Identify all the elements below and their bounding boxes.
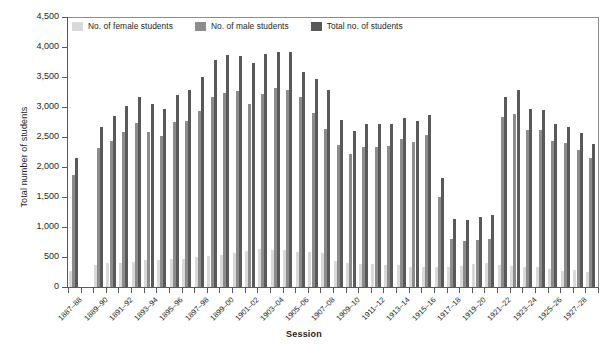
bar-total	[416, 121, 419, 287]
x-axis-tick	[371, 288, 372, 293]
bar-total	[390, 124, 393, 287]
x-axis-tick	[320, 288, 321, 293]
x-axis-tick	[346, 288, 347, 293]
bar-total	[504, 97, 507, 287]
bar-total	[226, 55, 229, 287]
x-axis-tick	[447, 288, 448, 293]
y-axis-tick-label: 0	[3, 282, 59, 291]
x-axis-tick	[182, 288, 183, 293]
y-axis-tick-label: 3,500	[3, 72, 59, 81]
bar-total	[75, 158, 78, 287]
y-axis-tick-label: 2,500	[3, 132, 59, 141]
y-axis-tick-label: 500	[3, 252, 59, 261]
x-axis-tick	[383, 288, 384, 293]
legend-swatch-male-icon	[195, 22, 206, 31]
legend-label-male: No. of male students	[211, 21, 289, 31]
bar-total	[188, 90, 191, 287]
x-axis-tick	[535, 288, 536, 293]
x-axis-tick	[156, 288, 157, 293]
x-axis-tick	[219, 288, 220, 293]
legend-swatch-total-icon	[311, 22, 322, 31]
bar-total	[151, 104, 154, 287]
bar-total	[466, 220, 469, 287]
bar-total	[353, 131, 356, 287]
legend-item-female: No. of female students	[72, 21, 173, 31]
bar-total	[138, 97, 141, 287]
x-axis-tick	[472, 288, 473, 293]
bar-total	[491, 215, 494, 287]
x-axis-tick	[81, 288, 82, 293]
legend-label-total: Total no. of students	[327, 21, 403, 31]
x-axis-tick	[522, 288, 523, 293]
bar-total	[403, 118, 406, 287]
x-axis-tick	[459, 288, 460, 293]
x-axis-tick	[106, 288, 107, 293]
x-axis-tick	[308, 288, 309, 293]
bar-total	[567, 127, 570, 287]
x-axis-tick	[169, 288, 170, 293]
x-axis-tick	[333, 288, 334, 293]
x-axis-tick	[497, 288, 498, 293]
x-axis-tick	[484, 288, 485, 293]
legend-label-female: No. of female students	[88, 21, 173, 31]
bar-total	[176, 95, 179, 287]
x-axis-tick	[144, 288, 145, 293]
bar-total	[542, 110, 545, 287]
bar-total	[365, 124, 368, 287]
bar-total	[453, 219, 456, 287]
x-axis-tick	[131, 288, 132, 293]
x-axis-tick	[585, 288, 586, 293]
bar-total	[113, 116, 116, 287]
bar-total	[327, 90, 330, 287]
legend-swatch-female-icon	[72, 22, 83, 31]
x-axis-tick	[257, 288, 258, 293]
bar-total	[163, 109, 166, 287]
x-axis-tick	[283, 288, 284, 293]
bar-total	[517, 90, 520, 287]
bar-total	[125, 106, 128, 287]
x-axis-tick	[118, 288, 119, 293]
x-axis-tick	[573, 288, 574, 293]
bar-total	[201, 77, 204, 287]
bar-total	[441, 178, 444, 287]
x-axis-tick	[207, 288, 208, 293]
bar-total	[277, 52, 280, 287]
chart-legend: No. of female students No. of male stude…	[72, 19, 403, 33]
x-axis-tick	[560, 288, 561, 293]
y-axis-tick-label: 1,000	[3, 222, 59, 231]
x-axis-tick	[434, 288, 435, 293]
bar-total	[289, 52, 292, 287]
x-axis-tick	[358, 288, 359, 293]
y-axis-tick-label: 1,500	[3, 192, 59, 201]
bar-total	[214, 60, 217, 287]
bar-total	[302, 72, 305, 287]
bar-total	[252, 63, 255, 287]
x-axis-tick	[232, 288, 233, 293]
bar-total	[239, 56, 242, 287]
bar-total	[340, 120, 343, 287]
y-axis-tick-label: 4,500	[3, 12, 59, 21]
bar-total	[479, 217, 482, 287]
bar-total	[529, 109, 532, 287]
y-axis-tick-label: 2,000	[3, 162, 59, 171]
x-axis-tick	[421, 288, 422, 293]
bar-total	[378, 124, 381, 287]
bar-total	[554, 124, 557, 287]
x-axis-tick	[548, 288, 549, 293]
x-axis-tick	[295, 288, 296, 293]
y-axis-title: Total number of students	[19, 77, 29, 237]
bars-layer	[68, 17, 598, 287]
x-axis-tick	[245, 288, 246, 293]
bar-total	[315, 79, 318, 287]
x-axis-tick	[396, 288, 397, 293]
bar-total	[428, 115, 431, 287]
y-axis-tick-label: 3,000	[3, 102, 59, 111]
x-axis-tick	[598, 288, 599, 293]
x-axis-tick	[194, 288, 195, 293]
x-axis-tick	[409, 288, 410, 293]
bar-total	[100, 127, 103, 287]
legend-item-male: No. of male students	[195, 21, 289, 31]
x-axis-title: Session	[0, 329, 608, 339]
bar-chart: Total number of students 05001,0001,5002…	[0, 0, 608, 345]
x-axis-tick	[270, 288, 271, 293]
